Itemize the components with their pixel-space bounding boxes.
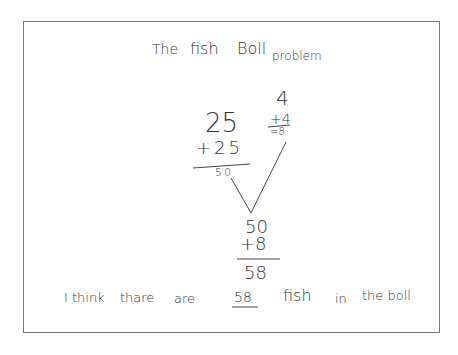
answer-text-the-boll: the boll <box>362 288 411 303</box>
answer-text-in: in <box>335 291 347 306</box>
answer-text-thare: thare <box>120 290 154 305</box>
answer-text-are: are <box>174 291 195 306</box>
answer-text-i-think: I think <box>64 290 105 305</box>
answer-number: 58 <box>234 289 252 305</box>
answer-text-fish: fish <box>283 286 312 305</box>
